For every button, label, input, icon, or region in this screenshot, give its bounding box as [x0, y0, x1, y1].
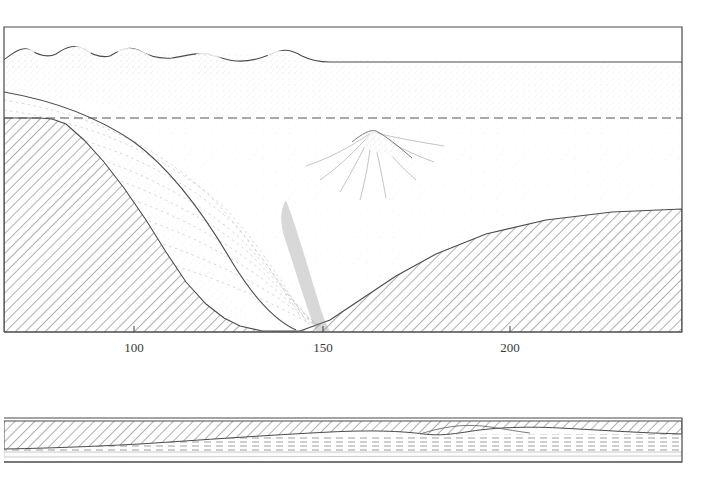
- main-panel-content: [4, 47, 682, 334]
- x-tick-label-100: 100: [124, 340, 144, 355]
- inset-panel-content: [4, 421, 682, 457]
- x-tick-label-150: 150: [313, 340, 333, 355]
- cross-section-figure: 100 150 200: [0, 0, 720, 484]
- inset-lower-band: [4, 452, 682, 457]
- x-tick-label-200: 200: [500, 340, 520, 355]
- figure-canvas: 100 150 200: [0, 0, 720, 484]
